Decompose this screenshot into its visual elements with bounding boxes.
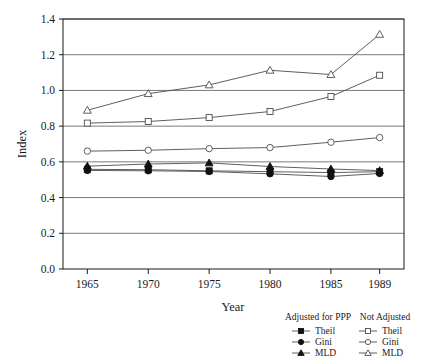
legend-item-label: Theil [315,326,335,336]
data-point-marker [366,329,371,334]
y-axis-tick-label: 0.8 [41,120,56,132]
x-axis-title: Year [221,300,245,314]
legend-item-label: Theil [382,326,402,336]
y-axis-tick-label: 0.2 [41,227,56,239]
data-point-marker [377,72,383,78]
data-point-marker [267,171,273,177]
y-axis-title: Index [15,129,29,158]
legend-item-label: MLD [382,348,403,358]
data-point-marker [365,339,370,344]
data-point-marker [299,329,304,334]
data-point-marker [84,120,90,126]
data-point-marker [267,144,273,150]
y-axis-tick-label: 0.6 [41,156,56,168]
y-axis-tick-label: 1.2 [41,49,56,61]
legend-item-label: Gini [382,337,399,347]
data-point-marker [328,94,334,100]
data-point-marker [376,134,382,140]
y-axis-tick-label: 0.4 [41,192,56,204]
legend-heading: Adjusted for PPP [285,312,351,322]
chart-page: 0.00.20.40.60.81.01.21.4 196519701975198… [0,0,425,364]
x-axis-tick-label: 1970 [137,278,160,290]
legend-heading: Not Adjusted [360,312,411,322]
data-point-marker [145,119,151,125]
legend-item-label: MLD [315,348,336,358]
x-axis-tick-label: 1975 [198,278,221,290]
y-axis-tick-label: 1.0 [41,84,56,96]
data-point-marker [206,115,212,121]
data-point-marker [145,168,151,174]
x-axis-tick-label: 1985 [319,278,342,290]
legend-item-label: Gini [315,337,332,347]
data-point-marker [84,148,90,154]
inequality-index-line-chart: 0.00.20.40.60.81.01.21.4 196519701975198… [0,0,425,364]
data-point-marker [267,109,273,115]
data-point-marker [206,145,212,151]
x-axis-tick-label: 1980 [259,278,282,290]
data-point-marker [298,339,303,344]
y-axis-tick-label: 1.4 [41,13,56,25]
x-axis-tick-label: 1989 [368,278,391,290]
x-axis-tick-label: 1965 [76,278,99,290]
data-point-marker [328,139,334,145]
data-point-marker [328,173,334,179]
y-axis-tick-label: 0.0 [41,263,56,275]
data-point-marker [145,147,151,153]
data-point-marker [206,168,212,174]
